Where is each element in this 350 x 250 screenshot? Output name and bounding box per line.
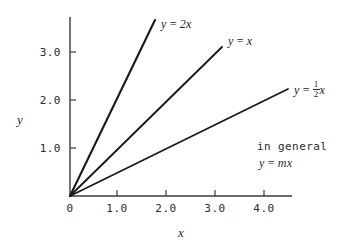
fraction-numerator: 1 [313,80,320,89]
x-tick-label-1: 1.0 [106,202,127,215]
label-variable-y: y [294,83,300,97]
x-tick-label-3: 3.0 [204,202,225,215]
y-axis-label: y [17,112,23,128]
note-variable-y: y [259,156,265,170]
note-equals-sign: = [265,156,278,170]
label-equals-sign: = [167,17,180,31]
fraction-one-half: 12 [313,80,320,100]
series-line-y-equals-x [70,47,222,196]
label-variable-y: y [161,17,167,31]
x-axis-label: x [178,225,184,241]
series-label-y-equals-2x: y=2x [161,17,192,32]
fraction-denominator: 2 [313,89,320,99]
series-line-y-equals-2x [70,20,155,196]
label-equals-sign: = [300,83,313,97]
y-tick-label-1: 1.0 [28,142,61,155]
note-heading-text: in general [257,140,327,153]
label-expression: x [247,34,253,48]
label-variable-y: y [228,34,234,48]
series-label-y-equals-x: y=x [228,34,252,49]
label-expression: x [320,83,326,97]
x-tick-label-4: 4.0 [253,202,274,215]
y-tick-label-3: 3.0 [28,46,61,59]
label-equals-sign: = [234,34,247,48]
label-expression: 2x [180,17,192,31]
y-tick-label-2: 2.0 [28,94,61,107]
linear-functions-chart: 0 1.0 2.0 3.0 4.0 1.0 2.0 3.0 y x y=2x y… [0,0,350,250]
note-formula: y=mx [257,156,327,171]
note-expression: mx [278,156,293,170]
x-tick-label-0: 0 [66,202,73,215]
general-form-note: in general y=mx [257,140,327,171]
series-label-y-equals-half-x: y=12x [294,81,325,101]
series-line-y-equals-half-x [70,89,288,196]
x-tick-label-2: 2.0 [155,202,176,215]
